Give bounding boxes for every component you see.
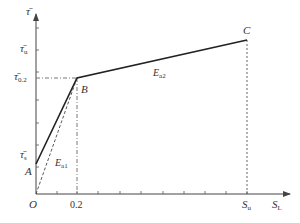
y-tick-tau-0.2: τ̄0.2 <box>14 70 27 84</box>
ea1-label: Ea1 <box>54 157 68 170</box>
point-c-label: C <box>243 24 251 36</box>
svg-text:τ̄: τ̄ <box>26 5 33 17</box>
origin-label: O <box>29 198 37 210</box>
diagram-svg: τ̄ τ̄u τ̄0.2 τ̄s A B C O Ea1 Ea2 0.2 Su <box>0 0 300 223</box>
x-tick-0.2: 0.2 <box>70 199 83 210</box>
secant-line-ea1 <box>36 78 77 194</box>
point-b-label: B <box>81 83 88 95</box>
svg-text:τ̄u: τ̄u <box>20 42 28 56</box>
y-axis-title: τ̄ <box>26 5 33 17</box>
x-tick-su: Su <box>242 198 252 212</box>
svg-text:Su: Su <box>242 198 252 212</box>
svg-text:Ea1: Ea1 <box>54 157 68 170</box>
svg-text:Ea2: Ea2 <box>152 67 166 80</box>
point-a-label: A <box>24 165 32 177</box>
svg-text:τ̄0.2: τ̄0.2 <box>14 70 27 84</box>
y-tick-tau-s: τ̄s <box>20 148 27 162</box>
y-tick-tau-u: τ̄u <box>20 42 28 56</box>
svg-text:τ̄s: τ̄s <box>20 148 27 162</box>
x-axis-title: SL <box>272 198 282 212</box>
stress-slip-diagram: τ̄ τ̄u τ̄0.2 τ̄s A B C O Ea1 Ea2 0.2 Su <box>0 0 300 223</box>
svg-text:SL: SL <box>272 198 282 212</box>
stress-slip-curve <box>36 40 247 164</box>
ea2-label: Ea2 <box>152 67 166 80</box>
